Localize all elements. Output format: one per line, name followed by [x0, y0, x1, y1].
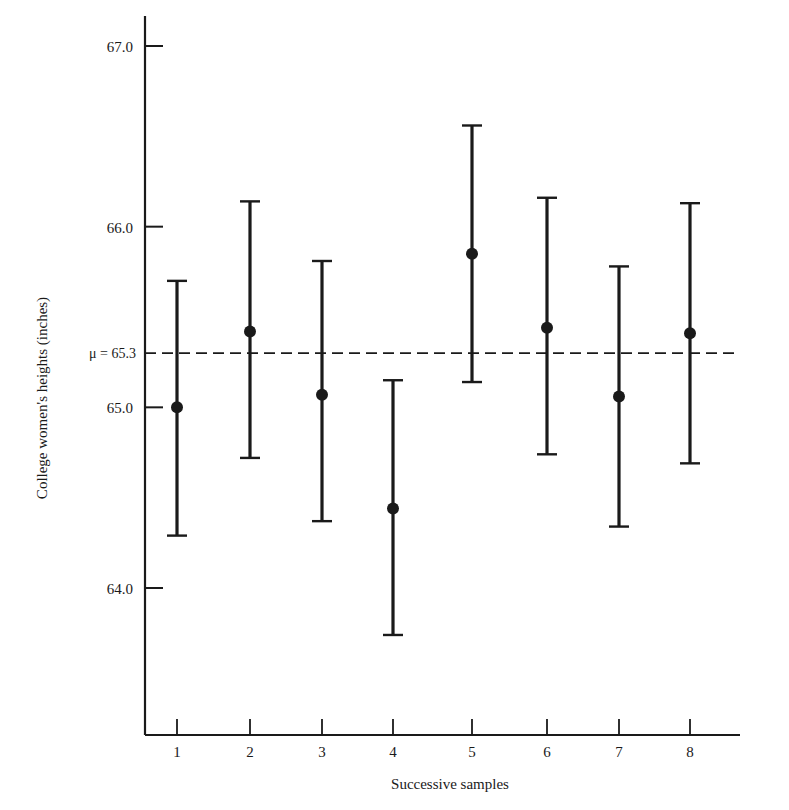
error-bar-sample-5	[462, 125, 482, 382]
mean-point	[387, 503, 399, 515]
error-bars	[167, 125, 700, 634]
y-tick-label: 66.0	[107, 220, 133, 236]
x-tick-label: 6	[543, 744, 551, 760]
error-bar-sample-1	[167, 281, 187, 536]
mean-point	[684, 327, 696, 339]
y-axis-label: College women's heights (inches)	[34, 297, 51, 499]
y-tick-label: 64.0	[107, 581, 133, 597]
x-ticks: 12345678	[173, 719, 694, 760]
mean-point	[316, 389, 328, 401]
error-bar-chart: 67.066.065.064.0 12345678 College women'…	[0, 0, 789, 810]
mean-point	[541, 322, 553, 334]
x-tick-label: 5	[468, 744, 476, 760]
x-axis-label: Successive samples	[391, 776, 509, 792]
x-tick-label: 4	[389, 744, 397, 760]
mean-point	[244, 325, 256, 337]
x-tick-label: 2	[246, 744, 254, 760]
error-bar-sample-6	[537, 198, 557, 455]
axes	[145, 16, 740, 735]
x-tick-label: 8	[686, 744, 694, 760]
y-tick-label: 65.0	[107, 400, 133, 416]
error-bar-sample-4	[383, 380, 403, 635]
mu-label: μ = 65.3	[89, 346, 136, 361]
x-tick-label: 1	[173, 744, 181, 760]
error-bar-sample-2	[240, 201, 260, 458]
y-ticks: 67.066.065.064.0	[107, 39, 163, 597]
error-bar-sample-8	[680, 203, 700, 463]
mean-point	[613, 390, 625, 402]
error-bar-sample-3	[312, 261, 332, 521]
x-tick-label: 3	[318, 744, 326, 760]
mean-point	[466, 248, 478, 260]
mean-point	[171, 401, 183, 413]
error-bar-sample-7	[609, 266, 629, 526]
x-tick-label: 7	[615, 744, 623, 760]
y-tick-label: 67.0	[107, 39, 133, 55]
